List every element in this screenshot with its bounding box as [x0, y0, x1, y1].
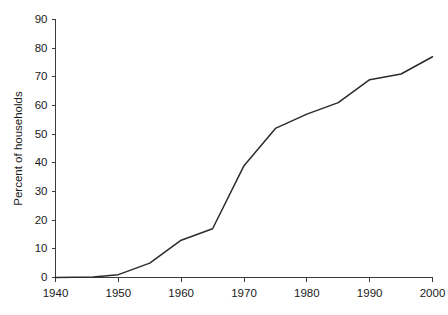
y-tick-label: 20: [35, 214, 48, 226]
x-tick-label: 2000: [420, 287, 446, 299]
y-tick-label: 30: [35, 185, 48, 197]
x-tick-label: 1960: [168, 287, 194, 299]
chart-background: [0, 0, 448, 315]
y-tick-label: 40: [35, 156, 48, 168]
y-tick-label: 60: [35, 99, 48, 111]
y-tick-label: 70: [35, 70, 48, 82]
x-tick-label: 1970: [231, 287, 257, 299]
x-tick-label: 1980: [294, 287, 320, 299]
x-tick-label: 1950: [106, 287, 132, 299]
y-tick-label: 10: [35, 242, 48, 254]
y-tick-label: 80: [35, 42, 48, 54]
y-tick-label: 90: [35, 13, 48, 25]
x-tick-label: 1940: [43, 287, 69, 299]
chart-container: 0102030405060708090 19401950196019701980…: [0, 0, 448, 315]
line-chart: 0102030405060708090 19401950196019701980…: [0, 0, 448, 315]
y-axis-title: Percent of households: [12, 91, 24, 206]
y-tick-label: 0: [41, 271, 47, 283]
y-tick-label: 50: [35, 128, 48, 140]
x-tick-label: 1990: [357, 287, 383, 299]
